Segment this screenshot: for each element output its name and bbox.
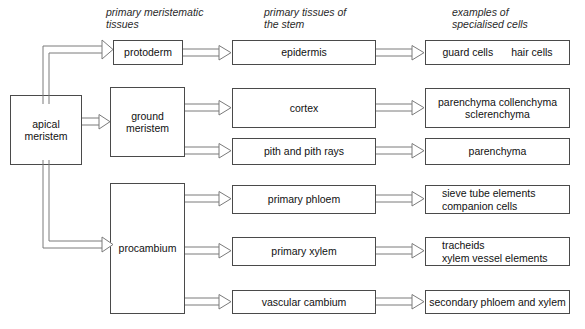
box-phloem-cells-label: sieve tube elements companion cells bbox=[426, 187, 569, 212]
arrow-pith-to-pith-cells bbox=[376, 143, 426, 159]
arrow-xylem-to-xylem-cells bbox=[376, 243, 426, 259]
arrow-procambium-to-vascular-cambium bbox=[185, 294, 233, 310]
arrow-ground-meristem-to-cortex bbox=[185, 100, 233, 116]
box-vascular-cambium[interactable]: vascular cambium bbox=[232, 290, 376, 314]
box-cortex[interactable]: cortex bbox=[232, 88, 376, 128]
box-cambium-cells-label: secondary phloem and xylem bbox=[426, 296, 569, 309]
box-procambium[interactable]: procambium bbox=[110, 183, 185, 314]
box-epidermis-cells[interactable]: guard cells hair cells bbox=[425, 40, 570, 65]
box-ground-meristem[interactable]: ground meristem bbox=[110, 87, 185, 157]
box-protoderm-label: protoderm bbox=[114, 46, 182, 59]
box-vascular-cambium-label: vascular cambium bbox=[233, 296, 375, 309]
column-header-examples-cells: examples of specialised cells bbox=[452, 7, 572, 30]
arrow-ground-meristem-to-pith bbox=[185, 143, 233, 159]
box-cambium-cells[interactable]: secondary phloem and xylem bbox=[425, 290, 570, 314]
box-primary-xylem-label: primary xylem bbox=[233, 245, 375, 258]
connector-apical-to-procambium bbox=[36, 160, 116, 265]
box-phloem-cells[interactable]: sieve tube elements companion cells bbox=[425, 185, 570, 214]
connector-apical-to-protoderm bbox=[36, 34, 116, 104]
arrow-procambium-to-primary-phloem bbox=[185, 191, 233, 207]
box-xylem-cells-label: tracheids xylem vessel elements bbox=[426, 239, 569, 264]
connector-apical-to-ground-meristem bbox=[82, 114, 112, 130]
box-epidermis[interactable]: epidermis bbox=[232, 40, 376, 65]
box-pith-and-pith-rays-label: pith and pith rays bbox=[233, 145, 375, 158]
box-pith-cells[interactable]: parenchyma bbox=[425, 138, 570, 165]
box-cortex-cells[interactable]: parenchyma collenchyma sclerenchyma bbox=[425, 88, 570, 128]
box-epidermis-label: epidermis bbox=[233, 46, 375, 59]
box-cortex-cells-label: parenchyma collenchyma sclerenchyma bbox=[426, 96, 569, 121]
column-header-meristematic-tissues: primary meristematic tissues bbox=[106, 7, 226, 30]
box-cortex-label: cortex bbox=[233, 102, 375, 115]
arrow-cambium-to-cambium-cells bbox=[376, 294, 426, 310]
arrow-procambium-to-primary-xylem bbox=[185, 243, 233, 259]
box-procambium-label: procambium bbox=[111, 242, 184, 255]
arrow-protoderm-to-epidermis bbox=[183, 45, 233, 61]
box-apical-meristem-label: apical meristem bbox=[11, 118, 81, 143]
box-primary-phloem-label: primary phloem bbox=[233, 193, 375, 206]
column-header-primary-tissues: primary tissues of the stem bbox=[264, 7, 384, 30]
diagram-canvas: primary meristematic tissues primary tis… bbox=[0, 0, 585, 329]
box-epidermis-cells-content: guard cells hair cells bbox=[426, 46, 569, 59]
arrow-epidermis-to-epidermis-cells bbox=[376, 45, 426, 61]
box-protoderm[interactable]: protoderm bbox=[113, 40, 183, 65]
box-apical-meristem[interactable]: apical meristem bbox=[10, 95, 82, 165]
box-primary-phloem[interactable]: primary phloem bbox=[232, 185, 376, 214]
box-xylem-cells[interactable]: tracheids xylem vessel elements bbox=[425, 237, 570, 266]
box-ground-meristem-label: ground meristem bbox=[111, 110, 184, 135]
arrow-phloem-to-phloem-cells bbox=[376, 191, 426, 207]
cell-hair-cells: hair cells bbox=[511, 46, 552, 59]
arrow-cortex-to-cortex-cells bbox=[376, 100, 426, 116]
cell-guard-cells: guard cells bbox=[442, 46, 493, 59]
box-primary-xylem[interactable]: primary xylem bbox=[232, 237, 376, 266]
box-pith-cells-label: parenchyma bbox=[426, 145, 569, 158]
box-pith-and-pith-rays[interactable]: pith and pith rays bbox=[232, 138, 376, 165]
